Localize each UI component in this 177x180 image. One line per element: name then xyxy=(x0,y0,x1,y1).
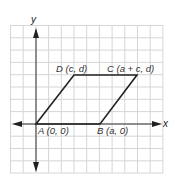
y-axis-down-arrow-icon xyxy=(33,162,39,172)
vertex-a-label: A (0, 0) xyxy=(37,125,69,136)
x-axis-left-arrow-icon xyxy=(12,121,22,127)
y-axis-up-arrow-icon xyxy=(33,28,39,38)
vertex-c-label: C (a + c, d) xyxy=(107,63,154,74)
x-axis-right-arrow-icon xyxy=(152,121,162,127)
grid xyxy=(10,25,163,173)
vertex-d-label: D (c, d) xyxy=(56,63,87,74)
x-axis-label: x xyxy=(162,118,169,129)
vertex-b-label: B (a, 0) xyxy=(97,125,128,136)
coordinate-plane: x y A (0, 0) B (a, 0) C (a + c, d) D (c,… xyxy=(0,0,177,180)
y-axis-label: y xyxy=(30,14,37,25)
